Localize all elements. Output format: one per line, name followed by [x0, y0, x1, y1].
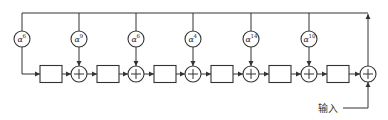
register-box	[97, 66, 119, 83]
adder	[185, 66, 201, 82]
coefficient-exponent: 14	[251, 33, 258, 39]
adder	[301, 66, 317, 82]
coefficient-exponent: 6	[137, 33, 141, 39]
coefficient-exponent: 6	[23, 33, 27, 39]
wires	[22, 13, 368, 108]
register-box	[269, 66, 291, 83]
coefficient-multiplier: α9	[71, 31, 87, 47]
coefficient-exponent: 4	[194, 33, 198, 39]
register-box	[40, 66, 62, 83]
labels: 输入	[318, 102, 338, 114]
coefficient-multiplier: α14	[243, 31, 259, 47]
input-label: 输入	[318, 102, 338, 114]
register-box	[211, 66, 233, 83]
adder	[243, 66, 259, 82]
shift-register-diagram: α6α9α6α4α14α10 输入	[0, 0, 388, 120]
coefficient-multiplier: α6	[128, 31, 144, 47]
nodes: α6α9α6α4α14α10	[14, 31, 376, 83]
coefficient-exponent: 10	[309, 33, 316, 39]
output-adder	[360, 66, 376, 82]
coefficient-multiplier: α10	[301, 31, 317, 47]
coefficient-multiplier: α4	[185, 31, 201, 47]
adder	[71, 66, 87, 82]
adder	[128, 66, 144, 82]
register-box	[327, 66, 349, 83]
register-box	[154, 66, 176, 83]
coefficient-exponent: 9	[80, 33, 84, 39]
coefficient-multiplier: α6	[14, 31, 30, 47]
